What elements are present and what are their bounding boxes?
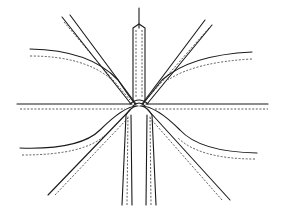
strands-upper: [30, 8, 252, 104]
radial-strands-drawing: [0, 0, 285, 220]
strands-lower: [20, 106, 257, 205]
